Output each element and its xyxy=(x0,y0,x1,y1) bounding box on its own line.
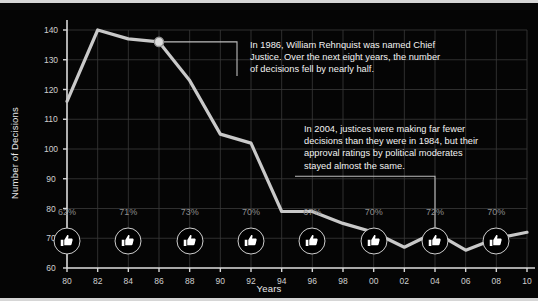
y-tick-80: 80 xyxy=(46,204,55,214)
y-tick-90: 90 xyxy=(46,174,55,184)
y-tick-130: 130 xyxy=(44,55,58,65)
thumbs-up-glyph xyxy=(60,234,75,249)
x-tick-04: 04 xyxy=(430,276,439,286)
x-tick-98: 98 xyxy=(338,276,347,286)
y-tick-100: 100 xyxy=(44,144,58,154)
thumbs-up-glyph xyxy=(366,234,381,249)
x-tick-00: 00 xyxy=(369,276,378,286)
chart-frame: Number of Decisions Years 80828486889092… xyxy=(0,0,538,301)
y-tick-120: 120 xyxy=(44,85,58,95)
thumbs-up-glyph xyxy=(305,234,320,249)
y-tick-60: 60 xyxy=(46,263,55,273)
thumbs-up-glyph xyxy=(428,234,443,249)
approval-label-1980: 62% xyxy=(58,207,76,217)
approval-label-2004: 72% xyxy=(426,207,444,217)
annotation-1986-text: In 1986, William Rehnquist was named Chi… xyxy=(250,39,450,76)
thumbs-up-icon-1980 xyxy=(54,228,81,255)
x-tick-02: 02 xyxy=(400,276,409,286)
thumbs-up-glyph xyxy=(244,234,259,249)
x-tick-88: 88 xyxy=(185,276,194,286)
thumbs-up-icon-1984 xyxy=(115,228,142,255)
approval-label-1992: 70% xyxy=(242,207,260,217)
x-tick-82: 82 xyxy=(93,276,102,286)
x-tick-90: 90 xyxy=(216,276,225,286)
annotation-2004-text: In 2004, justices were making far fewer … xyxy=(304,123,504,172)
approval-label-2008: 70% xyxy=(487,207,505,217)
thumbs-up-glyph xyxy=(121,234,136,249)
x-tick-08: 08 xyxy=(492,276,501,286)
x-tick-84: 84 xyxy=(124,276,133,286)
y-tick-110: 110 xyxy=(44,114,58,124)
x-tick-94: 94 xyxy=(277,276,286,286)
approval-label-2000: 70% xyxy=(365,207,383,217)
thumbs-up-icon-2008 xyxy=(483,228,510,255)
x-tick-10: 10 xyxy=(522,276,531,286)
y-axis-title: Number of Decisions xyxy=(9,107,20,199)
x-tick-80: 80 xyxy=(62,276,71,286)
x-tick-06: 06 xyxy=(461,276,470,286)
thumbs-up-icon-1988 xyxy=(176,228,203,255)
x-tick-92: 92 xyxy=(246,276,255,286)
approval-label-1984: 71% xyxy=(119,207,137,217)
thumbs-up-glyph xyxy=(182,234,197,249)
approval-label-1996: 67% xyxy=(303,207,321,217)
thumbs-up-icon-2000 xyxy=(360,228,387,255)
thumbs-up-icon-2004 xyxy=(422,228,449,255)
x-tick-86: 86 xyxy=(154,276,163,286)
y-tick-140: 140 xyxy=(44,25,58,35)
approval-label-1988: 73% xyxy=(181,207,199,217)
x-tick-96: 96 xyxy=(308,276,317,286)
thumbs-up-glyph xyxy=(489,234,504,249)
thumbs-up-icon-1996 xyxy=(299,228,326,255)
thumbs-up-icon-1992 xyxy=(238,228,265,255)
